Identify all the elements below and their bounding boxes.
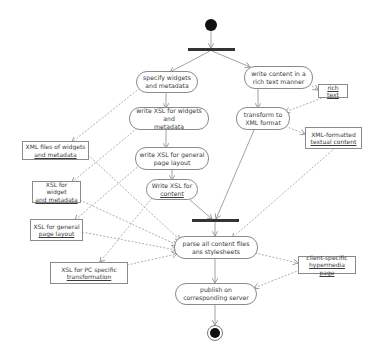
object-text: and metadata (35, 196, 77, 204)
object-xsl-general-layout: XSL for general page layout (30, 219, 83, 241)
action-text: write XSL for general (139, 151, 204, 158)
action-text: parse all content files (183, 240, 250, 247)
object-xml-textual-content: XML-formatted textual content (305, 127, 362, 149)
object-xml-files-widgets: XML files of widgets and metadata (22, 141, 89, 160)
action-text: rich text manner (253, 78, 305, 85)
activity-diagram: specify widgetsand metadata write conten… (0, 0, 378, 357)
object-rich-text: rich text (318, 84, 348, 98)
object-text: XSL for widget (35, 181, 78, 196)
object-text: rich text (321, 84, 345, 99)
action-parse-all: parse all content filesans stylesheets (174, 236, 258, 259)
object-text: textual content (311, 138, 357, 146)
action-write-xsl-widgets: write XSL for widgets andmetadata (129, 107, 209, 130)
action-text: transform to (244, 111, 283, 118)
action-write-xsl-content: Write XSL forcontent (146, 179, 198, 200)
object-text: XML-formatted (311, 131, 356, 139)
fork-bar (188, 48, 235, 51)
action-text: metadata (154, 123, 184, 130)
object-text: and metadata (34, 151, 76, 159)
action-specify-widgets: specify widgetsand metadata (136, 71, 198, 93)
action-text: XML format (245, 119, 281, 126)
action-publish: publish oncorresponding server (175, 283, 257, 305)
object-text: hypermedia page (301, 261, 353, 276)
object-text: XML files of widgets (26, 143, 86, 151)
action-text: specify widgets (143, 74, 191, 81)
object-text: XSL for PC specific (61, 266, 117, 274)
action-write-content: write content in arich text manner (244, 66, 313, 89)
object-text: XSL for general (33, 223, 79, 231)
action-text: content (160, 190, 184, 197)
final-node (210, 328, 220, 338)
object-xsl-widget: XSL for widget and metadata (32, 181, 81, 203)
action-text: corresponding server (183, 294, 249, 301)
action-text: ans stylesheets (192, 248, 240, 255)
action-text: Write XSL for (152, 182, 192, 189)
action-write-xsl-layout: write XSL for generalpage layout (135, 147, 209, 170)
initial-node (205, 19, 217, 31)
action-text: and metadata (145, 82, 189, 89)
object-text: transformation (67, 273, 112, 281)
action-text: page layout (154, 159, 191, 166)
object-text: page layout (39, 230, 75, 238)
object-client-hypermedia-page: client-specific hypermedia page (298, 256, 356, 274)
action-text: write content in a (251, 70, 306, 77)
action-transform-xml: transform toXML format (236, 107, 290, 130)
action-text: publish on (200, 286, 232, 293)
action-text: write XSL for widgets and (136, 107, 202, 122)
join-bar (192, 219, 239, 222)
object-xsl-pc-transformation: XSL for PC specific transformation (50, 262, 128, 284)
object-text: client-specific (306, 254, 347, 262)
